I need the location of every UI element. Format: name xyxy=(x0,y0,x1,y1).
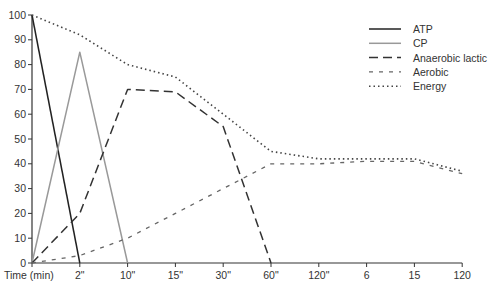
legend-label: Anaerobic lactic xyxy=(413,52,487,64)
x-tick-label: 120 xyxy=(453,269,471,281)
series-line-energy xyxy=(32,15,462,171)
series-line-aerobic xyxy=(32,161,462,263)
y-tick-label: 80 xyxy=(14,58,26,70)
x-tick-label: 15 xyxy=(409,269,421,281)
y-tick-label: 0 xyxy=(20,257,26,269)
x-tick-label: 15" xyxy=(168,269,184,281)
y-tick-label: 60 xyxy=(14,108,26,120)
legend-label: ATP xyxy=(413,23,433,35)
y-tick-label: 50 xyxy=(14,133,26,145)
x-tick-label: 10" xyxy=(120,269,136,281)
x-tick-label: Time (min) xyxy=(4,269,54,281)
legend-label: CP xyxy=(413,37,428,49)
x-tick-label: 60" xyxy=(263,269,279,281)
x-tick-label: 6 xyxy=(364,269,370,281)
y-tick-label: 10 xyxy=(14,232,26,244)
plot-lines xyxy=(32,15,462,263)
legend-label: Energy xyxy=(413,80,447,92)
y-tick-label: 100 xyxy=(8,9,26,21)
x-tick-label: 2" xyxy=(75,269,85,281)
y-tick-label: 40 xyxy=(14,157,26,169)
y-tick-label: 20 xyxy=(14,207,26,219)
y-tick-label: 90 xyxy=(14,33,26,45)
energy-systems-chart: 0102030405060708090100Time (min)2"10"15"… xyxy=(0,0,493,292)
y-tick-label: 30 xyxy=(14,182,26,194)
series-line-cp xyxy=(32,52,128,263)
series-line-anaerobic-lactic xyxy=(32,89,271,263)
legend: ATPCPAnaerobic lacticAerobicEnergy xyxy=(369,23,487,92)
series-line-atp xyxy=(32,15,80,263)
y-tick-label: 70 xyxy=(14,83,26,95)
legend-label: Aerobic xyxy=(413,66,449,78)
axes: 0102030405060708090100Time (min)2"10"15"… xyxy=(4,9,471,282)
x-tick-label: 120" xyxy=(308,269,330,281)
x-tick-label: 30" xyxy=(215,269,231,281)
